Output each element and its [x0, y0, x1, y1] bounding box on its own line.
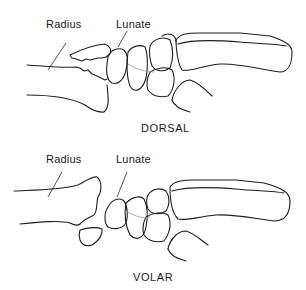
dorsal-caption: DORSAL — [141, 122, 190, 134]
radius-label: Radius — [46, 153, 81, 165]
radius-label: Radius — [46, 18, 81, 30]
lunate-label: Lunate — [116, 18, 151, 30]
volar-wrist-illustration — [0, 145, 306, 290]
dorsal-view-panel: Radius Lunate DORSAL — [0, 0, 306, 145]
volar-caption: VOLAR — [133, 271, 173, 283]
volar-view-panel: Radius Lunate VOLAR — [0, 145, 306, 290]
lunate-label: Lunate — [116, 153, 151, 165]
